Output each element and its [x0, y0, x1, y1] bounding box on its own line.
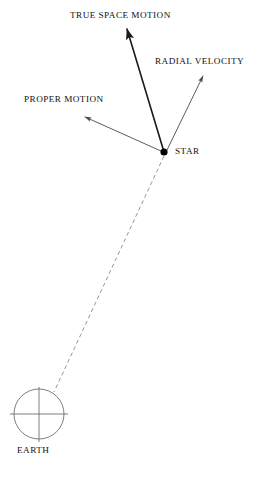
stellar-motion-diagram: TRUE SPACE MOTION RADIAL VELOCITY PROPER…	[0, 0, 276, 479]
sight-line-earth-to-star	[54, 156, 164, 392]
label-true-space-motion: TRUE SPACE MOTION	[70, 11, 171, 20]
vector-radial-velocity	[167, 76, 203, 150]
label-earth: EARTH	[17, 446, 49, 455]
label-radial-velocity: RADIAL VELOCITY	[155, 57, 244, 66]
vector-true-space-motion	[127, 29, 164, 152]
label-star: STAR	[175, 147, 200, 156]
star-marker-dot	[160, 148, 167, 155]
diagram-canvas	[0, 0, 276, 479]
label-proper-motion: PROPER MOTION	[24, 95, 104, 104]
vector-proper-motion	[85, 117, 161, 151]
